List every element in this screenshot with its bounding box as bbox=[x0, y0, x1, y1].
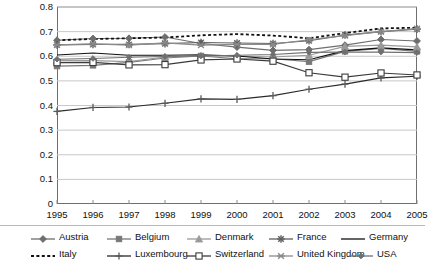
legend-item-label: Belgium bbox=[135, 232, 169, 242]
legend-item-label: France bbox=[297, 232, 327, 242]
x-axis-tick-label: 2000 bbox=[226, 210, 247, 220]
legend-item-switzerland[interactable]: Switzerland bbox=[186, 247, 264, 261]
x-axis-ticks bbox=[57, 200, 417, 204]
data-point-marker bbox=[233, 96, 240, 103]
legend-marker-icon bbox=[348, 248, 374, 260]
x-axis-tick-label: 2002 bbox=[298, 210, 319, 220]
y-axis-tick-label: 0.4 bbox=[3, 101, 53, 111]
x-axis-tick-label: 1997 bbox=[118, 210, 139, 220]
legend-item-label: Denmark bbox=[215, 232, 254, 242]
legend-item-label: Germany bbox=[369, 232, 408, 242]
legend-marker-icon bbox=[106, 231, 132, 243]
data-point-marker bbox=[269, 92, 276, 99]
data-point-marker bbox=[277, 253, 285, 259]
data-point-marker bbox=[162, 62, 168, 68]
x-axis-tick-label: 2004 bbox=[370, 210, 391, 220]
legend-marker-icon bbox=[186, 231, 212, 243]
legend-marker-icon bbox=[30, 231, 56, 243]
x-axis-tick-label: 2001 bbox=[262, 210, 283, 220]
data-point-marker bbox=[342, 74, 348, 80]
data-point-marker bbox=[341, 80, 348, 87]
legend-item-france[interactable]: France bbox=[268, 230, 327, 244]
plot-canvas bbox=[57, 7, 417, 204]
data-point-marker bbox=[306, 70, 312, 76]
y-axis-tick-label: 0.5 bbox=[3, 76, 53, 86]
data-point-marker bbox=[196, 253, 202, 259]
legend-item-usa[interactable]: USA bbox=[348, 247, 397, 261]
legend-marker-icon bbox=[30, 248, 56, 260]
legend-marker-icon bbox=[268, 231, 294, 243]
legend-row: AustriaBelgiumDenmarkFranceGermany bbox=[0, 230, 425, 246]
legend-row: ItalyLuxembourgSwitzerlandUnited Kingdom… bbox=[0, 247, 425, 263]
x-axis-tick-label: 1996 bbox=[82, 210, 103, 220]
legend-item-label: Austria bbox=[59, 232, 89, 242]
data-point-marker bbox=[125, 103, 132, 110]
x-axis-tick-label: 2003 bbox=[334, 210, 355, 220]
y-axis-tick-labels: 00.10.20.30.40.50.60.70.8 bbox=[0, 0, 53, 215]
data-point-marker bbox=[197, 95, 204, 102]
x-axis-tick-label: 2005 bbox=[406, 210, 427, 220]
data-point-marker bbox=[53, 108, 60, 115]
data-point-marker bbox=[358, 253, 364, 259]
y-axis-tick-label: 0.2 bbox=[3, 150, 53, 160]
data-point-marker bbox=[270, 58, 276, 64]
series-line bbox=[57, 76, 417, 111]
data-point-marker bbox=[126, 62, 132, 68]
chart-legend: AustriaBelgiumDenmarkFranceGermany Italy… bbox=[0, 225, 425, 267]
legend-marker-icon bbox=[186, 248, 212, 260]
legend-item-austria[interactable]: Austria bbox=[30, 230, 89, 244]
y-axis-tick-label: 0.8 bbox=[3, 2, 53, 12]
legend-item-germany[interactable]: Germany bbox=[340, 230, 408, 244]
legend-item-luxembourg[interactable]: Luxembourg bbox=[106, 247, 188, 261]
x-axis-tick-label: 1999 bbox=[190, 210, 211, 220]
data-point-marker bbox=[40, 236, 47, 243]
y-axis-tick-label: 0.1 bbox=[3, 174, 53, 184]
x-axis-tick-label: 1995 bbox=[46, 210, 67, 220]
data-point-marker bbox=[233, 39, 241, 47]
legend-item-label: Switzerland bbox=[215, 249, 264, 259]
legend-marker-icon bbox=[268, 248, 294, 260]
data-point-marker bbox=[414, 72, 420, 78]
data-point-marker bbox=[162, 34, 169, 41]
legend-marker-icon bbox=[106, 248, 132, 260]
y-axis-tick-label: 0 bbox=[3, 199, 53, 209]
data-point-marker bbox=[115, 252, 122, 259]
legend-item-label: Luxembourg bbox=[135, 249, 188, 259]
data-point-marker bbox=[378, 70, 384, 76]
data-point-marker bbox=[116, 236, 121, 241]
legend-item-belgium[interactable]: Belgium bbox=[106, 230, 169, 244]
data-point-marker bbox=[306, 59, 311, 64]
legend-item-italy[interactable]: Italy bbox=[30, 247, 76, 261]
legend-item-denmark[interactable]: Denmark bbox=[186, 230, 254, 244]
y-axis-tick-label: 0.7 bbox=[3, 27, 53, 37]
data-point-marker bbox=[305, 86, 312, 93]
legend-item-label: Italy bbox=[59, 249, 76, 259]
data-point-marker bbox=[277, 235, 285, 243]
legend-item-label: USA bbox=[377, 249, 397, 259]
y-axis-tick-label: 0.6 bbox=[3, 51, 53, 61]
x-axis-tick-labels: 1995199619971998199920002001200220032004… bbox=[57, 208, 417, 222]
data-point-marker bbox=[89, 104, 96, 111]
x-axis-tick-label: 1998 bbox=[154, 210, 175, 220]
y-axis-tick-label: 0.3 bbox=[3, 125, 53, 135]
legend-marker-icon bbox=[340, 231, 366, 243]
